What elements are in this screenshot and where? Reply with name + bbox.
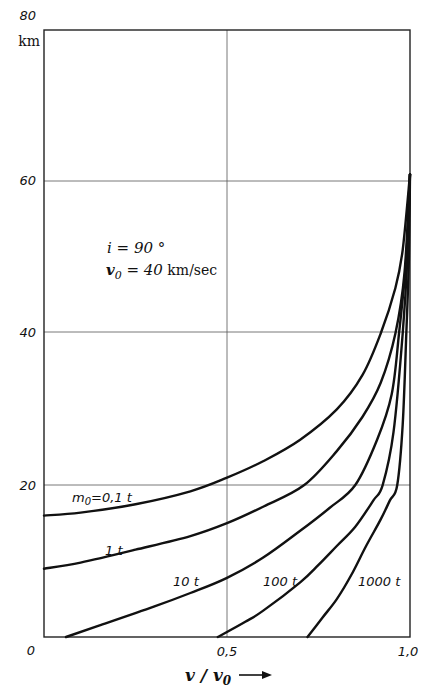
x-tick-1.0: 1,0 [398, 644, 419, 659]
y-tick-20: 20 [19, 478, 36, 493]
annotation-velocity-unit: km/sec [163, 262, 217, 278]
y-tick-40: 40 [19, 325, 36, 340]
y-tick-80: 80 [19, 8, 36, 23]
x-axis-label-sub: 0 [223, 674, 232, 688]
y-tick-0: 0 [27, 643, 35, 658]
y-unit-label: km [18, 33, 40, 49]
annotation-velocity: v0 = 40 km/sec [106, 261, 217, 282]
svg-text:v / v0: v / v0 [185, 665, 232, 688]
arrow-head-icon [262, 671, 272, 679]
curve-label-10t: 10 t [173, 574, 200, 589]
y-tick-60: 60 [19, 173, 36, 188]
annotation-velocity-sub: 0 [115, 269, 122, 282]
grid [44, 30, 410, 637]
curve-label-100t: 100 t [263, 574, 298, 589]
x-axis-label-main: v / v [185, 665, 224, 685]
curve-label-1t: 1 t [105, 543, 123, 558]
annotation-velocity-value: = 40 [122, 261, 164, 279]
curve-label-0.1t: m0=0,1 t [72, 490, 133, 507]
x-tick-0.5: 0,5 [217, 644, 238, 659]
chart: 80 km 60 40 20 0 0,5 1,0 v / v0 i = 90 °… [0, 0, 427, 691]
annotation-inclination: i = 90 ° [107, 239, 165, 257]
x-axis-label: v / v0 [185, 665, 272, 688]
annotation-velocity-symbol: v [106, 261, 115, 279]
curve-label-m-value: =0,1 t [91, 490, 133, 505]
curve-label-m: m [72, 490, 85, 505]
curve-1000-t [308, 174, 411, 637]
curve-label-1000t: 1000 t [358, 574, 401, 589]
